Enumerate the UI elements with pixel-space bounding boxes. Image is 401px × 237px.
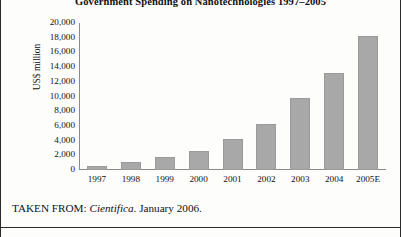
bar-1998 [121, 162, 141, 170]
bar-2004 [324, 73, 344, 170]
x-tick-label: 1999 [148, 174, 182, 184]
caption-suffix: . January 2006. [134, 202, 202, 214]
bar-slot [283, 23, 317, 170]
bar-slot [80, 23, 114, 170]
bottom-divider [1, 227, 400, 228]
y-tick-label: 18,000 [29, 33, 75, 42]
bar-slot [114, 23, 148, 170]
y-tick-label: 2,000 [29, 150, 75, 159]
bar-2005E [358, 36, 378, 170]
bar-slot [249, 23, 283, 170]
bar-series [80, 23, 385, 170]
y-tick-label: 14,000 [29, 62, 75, 71]
x-tick-label: 1998 [114, 174, 148, 184]
y-tick-label: 12,000 [29, 77, 75, 86]
figure-caption: TAKEN FROM: Cientifica. January 2006. [12, 202, 202, 214]
bar-slot [317, 23, 351, 170]
y-tick-label: 16,000 [29, 47, 75, 56]
x-tick-label: 2004 [317, 174, 351, 184]
bar-2003 [290, 98, 310, 170]
x-axis-tick-labels: 199719981999200020012002200320042005E [80, 174, 385, 184]
y-tick-label: 10,000 [29, 92, 75, 101]
caption-source: Cientifica [89, 202, 133, 214]
chart-title: Government Spending on Nanotechnologies … [1, 0, 400, 7]
x-tick-label: 1997 [80, 174, 114, 184]
y-tick-label: 8,000 [29, 106, 75, 115]
bar-slot [182, 23, 216, 170]
bar-2000 [189, 151, 209, 170]
figure-container: Government Spending on Nanotechnologies … [0, 0, 401, 237]
y-tick-label: 0 [29, 165, 75, 174]
y-axis-tick-labels: 20,00018,00016,00014,00012,00010,0008,00… [29, 17, 75, 176]
bar-2001 [223, 139, 243, 170]
x-tick-label: 2002 [249, 174, 283, 184]
y-tick-label: 20,000 [29, 18, 75, 27]
caption-prefix: TAKEN FROM: [12, 202, 89, 214]
bar-slot [216, 23, 250, 170]
x-tick-label: 2000 [182, 174, 216, 184]
bar-slot [148, 23, 182, 170]
bar-slot [351, 23, 385, 170]
bar-1997 [87, 166, 107, 170]
x-tick-label: 2005E [351, 174, 385, 184]
x-tick-label: 2003 [283, 174, 317, 184]
bar-1999 [155, 157, 175, 170]
bar-2002 [256, 124, 276, 170]
y-tick-label: 6,000 [29, 121, 75, 130]
y-tick-label: 4,000 [29, 136, 75, 145]
x-tick-label: 2001 [216, 174, 250, 184]
